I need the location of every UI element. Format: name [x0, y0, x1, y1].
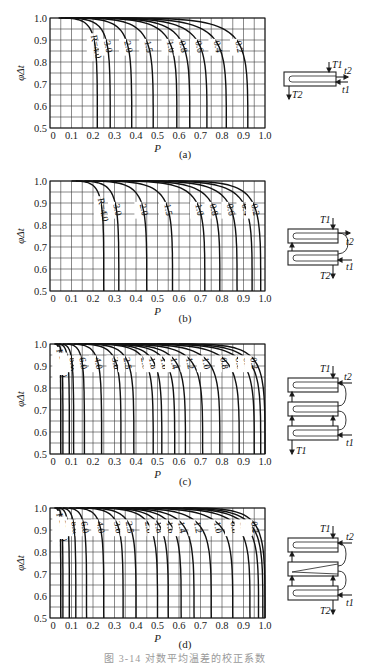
- svg-text:0.8: 0.8: [34, 547, 47, 558]
- heat-exchanger-schematic-icon: T1t2t1T2: [288, 523, 354, 616]
- svg-text:0: 0: [50, 620, 55, 631]
- curve-label: 0.8: [218, 357, 230, 371]
- svg-text:0.6: 0.6: [172, 130, 185, 141]
- svg-text:1.0: 1.0: [34, 13, 47, 24]
- svg-text:0.9: 0.9: [237, 620, 250, 631]
- svg-text:0.1: 0.1: [65, 456, 78, 467]
- svg-text:0.7: 0.7: [34, 79, 47, 90]
- svg-text:0.7: 0.7: [194, 620, 207, 631]
- figure-caption: 图 3-14 对数平均温差的校正系数: [0, 650, 370, 663]
- svg-text:0.7: 0.7: [194, 456, 207, 467]
- panel-label-d: (d): [0, 638, 370, 650]
- svg-text:0.8: 0.8: [215, 293, 228, 304]
- svg-text:0.5: 0.5: [34, 613, 47, 624]
- curve-label: 1.0: [212, 521, 224, 535]
- svg-text:0: 0: [50, 130, 55, 141]
- svg-text:0.9: 0.9: [34, 525, 47, 536]
- svg-text:0.6: 0.6: [34, 591, 47, 602]
- svg-text:0.7: 0.7: [34, 569, 47, 580]
- svg-text:1.0: 1.0: [258, 130, 271, 141]
- svg-text:t2: t2: [346, 236, 354, 247]
- svg-text:T2: T2: [320, 270, 331, 281]
- svg-text:0.6: 0.6: [34, 264, 47, 275]
- svg-text:0.6: 0.6: [172, 620, 185, 631]
- svg-text:T2: T2: [292, 89, 303, 100]
- svg-text:0.9: 0.9: [237, 293, 250, 304]
- chart-panel-d: 00.10.20.30.40.50.60.70.80.91.00.50.60.7…: [0, 490, 370, 653]
- svg-text:1.0: 1.0: [34, 339, 47, 350]
- svg-text:1.0: 1.0: [258, 293, 271, 304]
- svg-text:0.8: 0.8: [215, 456, 228, 467]
- svg-text:T1: T1: [332, 59, 343, 70]
- svg-text:T1: T1: [296, 445, 307, 456]
- y-axis-label: φΔt: [14, 390, 26, 407]
- svg-text:0.6: 0.6: [172, 456, 185, 467]
- curve-label: 0.2: [249, 521, 261, 535]
- curve-label: 1.0: [200, 357, 212, 371]
- svg-text:T2: T2: [320, 605, 331, 616]
- panel-label-b: (b): [0, 312, 370, 324]
- curve-label: 2.5: [122, 357, 134, 371]
- svg-text:1.0: 1.0: [258, 620, 271, 631]
- svg-text:0.9: 0.9: [34, 35, 47, 46]
- svg-text:0.2: 0.2: [86, 130, 99, 141]
- svg-text:0.8: 0.8: [215, 130, 228, 141]
- svg-text:0.3: 0.3: [108, 456, 121, 467]
- y-axis-label: φΔt: [14, 554, 26, 571]
- svg-text:0.4: 0.4: [129, 293, 143, 304]
- svg-text:0.8: 0.8: [215, 620, 228, 631]
- svg-text:0.5: 0.5: [151, 293, 164, 304]
- svg-text:1.0: 1.0: [34, 503, 47, 514]
- svg-text:0.6: 0.6: [34, 101, 47, 112]
- svg-text:0.8: 0.8: [34, 57, 47, 68]
- chart-plot-a: 00.10.20.30.40.50.60.70.80.91.00.50.60.7…: [0, 0, 370, 163]
- svg-text:1.0: 1.0: [258, 456, 271, 467]
- y-axis-label: φΔt: [14, 64, 26, 81]
- svg-text:0.8: 0.8: [34, 383, 47, 394]
- svg-text:0.6: 0.6: [34, 427, 47, 438]
- curve-label: 4.0: [95, 521, 107, 535]
- svg-text:0.8: 0.8: [34, 220, 47, 231]
- curve-label: 6.0: [77, 357, 89, 371]
- svg-text:0.4: 0.4: [129, 130, 143, 141]
- svg-text:0.1: 0.1: [65, 130, 78, 141]
- svg-text:T1: T1: [320, 214, 331, 225]
- chart-plot-d: 00.10.20.30.40.50.60.70.80.91.00.50.60.7…: [0, 490, 370, 653]
- grid: [50, 18, 265, 128]
- curve-label: 1.2: [192, 521, 204, 535]
- curve-label: 2.5: [124, 521, 136, 535]
- svg-text:0.9: 0.9: [34, 361, 47, 372]
- y-axis-label: φΔt: [14, 227, 26, 244]
- svg-text:0.2: 0.2: [86, 293, 99, 304]
- svg-text:0.9: 0.9: [237, 130, 250, 141]
- svg-text:0.9: 0.9: [34, 198, 47, 209]
- curve-label: 1.4: [168, 357, 180, 371]
- heat-exchanger-schematic-icon: T1t2t1T2: [288, 214, 354, 281]
- svg-text:0.4: 0.4: [129, 620, 143, 631]
- chart-plot-c: 00.10.20.30.40.50.60.70.80.91.00.50.60.7…: [0, 326, 370, 489]
- svg-text:0.5: 0.5: [34, 123, 47, 134]
- chart-panel-c: 00.10.20.30.40.50.60.70.80.91.00.50.60.7…: [0, 326, 370, 489]
- svg-text:t1: t1: [342, 84, 350, 95]
- svg-text:0.6: 0.6: [172, 293, 185, 304]
- curve-label: 6.0: [79, 521, 91, 535]
- curve-label: 0.2: [248, 357, 260, 371]
- svg-text:T1: T1: [320, 523, 331, 534]
- svg-text:0.5: 0.5: [151, 456, 164, 467]
- svg-text:0.5: 0.5: [151, 130, 164, 141]
- svg-text:0.7: 0.7: [194, 293, 207, 304]
- svg-text:0.4: 0.4: [129, 456, 143, 467]
- svg-text:0: 0: [50, 456, 55, 467]
- grid: [50, 181, 265, 291]
- svg-text:0.5: 0.5: [34, 449, 47, 460]
- curve-label: 1.4: [176, 521, 188, 535]
- svg-text:0.2: 0.2: [86, 456, 99, 467]
- svg-text:0.1: 0.1: [65, 620, 78, 631]
- svg-text:0.5: 0.5: [151, 620, 164, 631]
- svg-text:0.5: 0.5: [34, 286, 47, 297]
- chart-plot-b: 00.10.20.30.40.50.60.70.80.91.00.50.60.7…: [0, 163, 370, 326]
- svg-text:t1: t1: [346, 261, 354, 272]
- svg-text:0.2: 0.2: [86, 620, 99, 631]
- svg-text:0.7: 0.7: [34, 242, 47, 253]
- curve-label: 4.0: [93, 357, 105, 371]
